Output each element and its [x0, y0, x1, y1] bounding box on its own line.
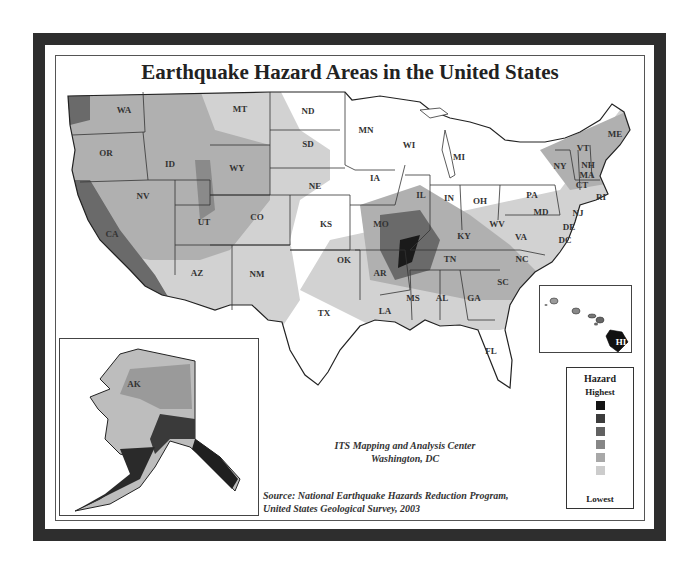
state-label-ar: AR	[374, 268, 387, 278]
state-label-ms: MS	[406, 293, 420, 303]
producer-credit-line1: ITS Mapping and Analysis Center	[305, 440, 505, 451]
state-label-ok: OK	[337, 255, 351, 265]
state-label-fl: FL	[485, 346, 497, 356]
state-label-sc: SC	[497, 277, 509, 287]
legend-swatch-4	[596, 440, 605, 449]
state-label-ny: NY	[554, 161, 567, 171]
state-label-al: AL	[436, 293, 449, 303]
state-label-ma: MA	[580, 170, 595, 180]
state-label-ct: CT	[576, 180, 589, 190]
state-label-il: IL	[416, 190, 426, 200]
state-label-ga: GA	[467, 293, 481, 303]
state-label-nv: NV	[137, 191, 150, 201]
state-label-ia: IA	[370, 173, 381, 183]
legend-title: Hazard	[567, 373, 633, 384]
state-label-mo: MO	[373, 219, 389, 229]
state-label-tn: TN	[444, 254, 457, 264]
state-label-ca: CA	[106, 229, 119, 239]
legend-swatch-6	[596, 466, 605, 475]
state-label-nd: ND	[302, 106, 315, 116]
state-label-wi: WI	[403, 140, 416, 150]
state-label-la: LA	[379, 306, 392, 316]
legend-swatches	[567, 401, 633, 475]
source-credit-line1: Source: National Earthquake Hazards Redu…	[263, 490, 509, 501]
state-label-me: ME	[608, 129, 623, 139]
hazard-legend: Hazard Highest Lowest	[566, 367, 634, 509]
state-label-dc: DC	[559, 235, 572, 245]
state-label-mi: MI	[453, 152, 465, 162]
legend-swatch-1	[596, 401, 605, 410]
state-label-wa: WA	[117, 105, 132, 115]
state-label-mn: MN	[359, 125, 374, 135]
state-label-oh: OH	[473, 196, 487, 206]
legend-swatch-3	[596, 427, 605, 436]
state-label-az: AZ	[191, 268, 204, 278]
state-label-or: OR	[99, 148, 113, 158]
legend-highest-label: Highest	[567, 387, 633, 397]
hawaii-map: HI	[540, 286, 633, 354]
state-label-ri: RI	[596, 192, 606, 202]
state-label-hi: HI	[616, 337, 627, 347]
state-label-ne: NE	[309, 181, 322, 191]
legend-swatch-2	[596, 414, 605, 423]
alaska-map: AK	[60, 339, 260, 517]
state-label-vt: VT	[577, 143, 590, 153]
state-label-wv: WV	[489, 219, 505, 229]
state-label-id: ID	[165, 159, 176, 169]
state-label-va: VA	[515, 232, 527, 242]
legend-lowest-label: Lowest	[567, 494, 633, 504]
hawaii-inset: HI	[539, 285, 632, 353]
state-label-nm: NM	[250, 269, 265, 279]
state-label-de: DE	[563, 222, 576, 232]
state-label-nj: NJ	[573, 208, 584, 218]
state-label-wy: WY	[229, 163, 245, 173]
state-label-tx: TX	[318, 308, 331, 318]
state-label-ak: AK	[127, 379, 141, 389]
legend-swatch-5	[596, 453, 605, 462]
state-label-sd: SD	[302, 139, 314, 149]
state-label-nc: NC	[516, 254, 529, 264]
state-label-ut: UT	[198, 217, 211, 227]
state-label-nh: NH	[581, 160, 595, 170]
producer-credit-line2: Washington, DC	[305, 453, 505, 464]
state-label-pa: PA	[526, 190, 538, 200]
alaska-inset: AK	[59, 338, 259, 516]
state-label-in: IN	[444, 193, 455, 203]
source-credit-line2: United States Geological Survey, 2003	[263, 503, 420, 514]
state-label-md: MD	[534, 207, 549, 217]
state-label-co: CO	[250, 212, 264, 222]
state-label-ks: KS	[320, 219, 332, 229]
state-label-ky: KY	[457, 231, 471, 241]
state-label-mt: MT	[233, 104, 248, 114]
